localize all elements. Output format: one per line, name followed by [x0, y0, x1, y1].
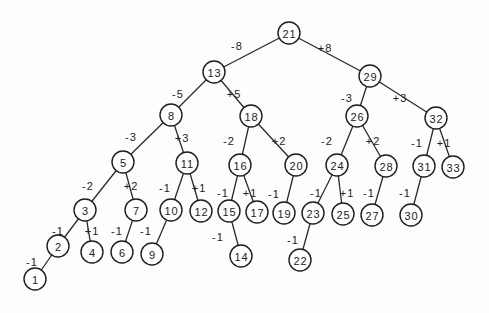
node-label: 19: [277, 208, 291, 220]
node-label: 29: [363, 71, 377, 83]
node-label: 2: [55, 241, 62, 253]
node-label: 14: [234, 251, 248, 263]
edge-label: -1: [26, 256, 38, 268]
edge-label: -2: [223, 135, 235, 147]
tree-node-27: 27: [361, 204, 383, 226]
edge-21-13: [214, 33, 289, 72]
node-label: 11: [181, 158, 194, 170]
node-label: 7: [133, 205, 140, 217]
edge-label: +2: [124, 180, 139, 192]
node-label: 33: [446, 162, 460, 174]
tree-node-21: 21: [278, 22, 300, 44]
node-label: 8: [168, 110, 175, 122]
node-label: 13: [207, 67, 221, 79]
tree-node-13: 13: [203, 61, 225, 83]
tree-node-16: 16: [229, 154, 251, 176]
tree-node-25: 25: [332, 203, 354, 225]
tree-node-33: 33: [442, 156, 464, 178]
edge-label: -8: [231, 40, 243, 52]
tree-node-24: 24: [326, 154, 348, 176]
node-label: 15: [222, 206, 236, 218]
node-label: 20: [289, 160, 303, 172]
node-label: 28: [379, 161, 393, 173]
edge-label: +1: [437, 137, 452, 149]
tree-node-26: 26: [346, 105, 368, 127]
tree-node-2: 2: [47, 235, 69, 257]
node-label: 9: [149, 249, 156, 261]
tree-node-19: 19: [273, 202, 295, 224]
edge-label: +2: [366, 135, 381, 147]
tree-node-23: 23: [302, 202, 324, 224]
edge-label: +3: [175, 132, 190, 144]
tree-node-29: 29: [359, 65, 381, 87]
tree-node-6: 6: [111, 241, 133, 263]
tree-node-11: 11: [176, 152, 198, 174]
tree-node-12: 12: [190, 200, 212, 222]
edge-label: -3: [125, 131, 137, 143]
tree-node-4: 4: [81, 241, 103, 263]
node-label: 24: [330, 160, 344, 172]
tree-node-7: 7: [125, 199, 147, 221]
tree-node-28: 28: [375, 155, 397, 177]
node-label: 5: [120, 157, 127, 169]
edge-label: -3: [341, 92, 353, 104]
tree-node-31: 31: [413, 155, 435, 177]
tree-diagram: -8+8-5+5-3+3-3+3-2+2-2+2-1+1-2+2-1+1-1+1…: [0, 0, 489, 313]
tree-node-1: 1: [24, 268, 46, 290]
node-label: 25: [336, 209, 350, 221]
node-label: 30: [404, 210, 418, 222]
node-label: 6: [119, 247, 126, 259]
tree-node-32: 32: [425, 107, 447, 129]
node-label: 31: [417, 161, 431, 173]
tree-node-3: 3: [74, 199, 96, 221]
edge-label: -2: [321, 135, 333, 147]
node-label: 1: [32, 274, 39, 286]
tree-node-9: 9: [141, 243, 163, 265]
edge-label: -1: [212, 231, 224, 243]
edge-label: -1: [111, 225, 123, 237]
node-label: 17: [250, 207, 264, 219]
edge-label: -1: [159, 182, 171, 194]
edge-label: -1: [399, 187, 411, 199]
edge-label: +5: [227, 88, 242, 100]
edge-label: +2: [272, 135, 287, 147]
node-label: 22: [293, 255, 307, 267]
edge-label: -1: [411, 137, 423, 149]
node-label: 18: [244, 111, 258, 123]
node-label: 3: [82, 205, 89, 217]
edge-label: -1: [140, 225, 152, 237]
edge-label: -5: [172, 88, 184, 100]
nodes-layer: 2113298182632511162024283133371012151719…: [24, 22, 464, 290]
edge-label: +3: [393, 92, 408, 104]
edge-label: -1: [217, 187, 229, 199]
edge-label: -1: [268, 188, 280, 200]
tree-node-20: 20: [285, 154, 307, 176]
tree-node-18: 18: [240, 105, 262, 127]
edge-label: +1: [243, 187, 258, 199]
edge-21-29: [289, 33, 370, 76]
edge-label: -2: [82, 180, 94, 192]
edge-label: +1: [85, 225, 100, 237]
tree-node-10: 10: [160, 199, 182, 221]
tree-node-17: 17: [246, 201, 268, 223]
tree-node-15: 15: [218, 200, 240, 222]
tree-svg: -8+8-5+5-3+3-3+3-2+2-2+2-1+1-2+2-1+1-1+1…: [0, 0, 489, 313]
node-label: 26: [350, 111, 364, 123]
tree-node-30: 30: [400, 204, 422, 226]
tree-node-5: 5: [112, 151, 134, 173]
edge-label: +1: [192, 182, 207, 194]
node-label: 21: [282, 28, 296, 40]
edge-label: -1: [363, 187, 375, 199]
node-label: 10: [164, 205, 178, 217]
node-label: 4: [89, 247, 96, 259]
tree-node-22: 22: [289, 249, 311, 271]
node-label: 23: [306, 208, 320, 220]
node-label: 12: [194, 206, 208, 218]
edge-label: -1: [310, 187, 322, 199]
node-label: 27: [365, 210, 379, 222]
edge-label: -1: [287, 234, 299, 246]
tree-node-14: 14: [230, 245, 252, 267]
node-label: 16: [233, 160, 247, 172]
edge-label: +1: [340, 187, 355, 199]
node-label: 32: [429, 113, 443, 125]
